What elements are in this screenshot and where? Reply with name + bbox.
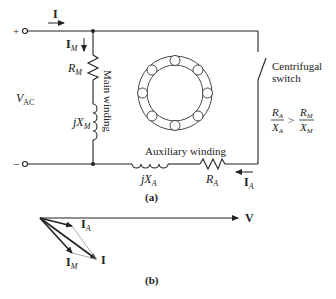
terminal-plus-label: + bbox=[13, 25, 19, 37]
svg-text:RA: RA bbox=[271, 106, 284, 120]
aux-current-phasor-label: IA bbox=[81, 217, 91, 233]
aux-winding-label: Auxiliary winding bbox=[145, 145, 226, 157]
main-resistor-label: RM bbox=[67, 61, 83, 77]
split-phase-motor-diagram: + − I IM RM jXM Main winding VAC Auxilia… bbox=[0, 0, 336, 299]
line-current-label: I bbox=[53, 7, 58, 21]
caption-b: (b) bbox=[145, 274, 159, 287]
switch-label-line1: Centrifugal bbox=[272, 60, 322, 72]
source-voltage-label: VAC bbox=[16, 91, 34, 107]
aux-resistor-label: RA bbox=[205, 172, 218, 188]
aux-resistor-symbol bbox=[200, 159, 225, 169]
terminal-plus bbox=[23, 29, 28, 34]
svg-text:XA: XA bbox=[271, 121, 284, 135]
main-current-label: IM bbox=[66, 37, 79, 53]
main-winding-label: Main winding bbox=[102, 70, 114, 133]
main-reactance-label: jXM bbox=[71, 115, 92, 131]
main-resistor-symbol bbox=[88, 55, 98, 80]
svg-text:XM: XM bbox=[299, 121, 314, 135]
caption-a: (a) bbox=[145, 191, 158, 204]
aux-current-label: IA bbox=[244, 175, 254, 191]
main-current-phasor bbox=[40, 218, 72, 253]
svg-text:RM: RM bbox=[299, 106, 314, 120]
rotor-cross-section bbox=[138, 56, 213, 131]
main-inductor-symbol bbox=[93, 104, 97, 140]
phasor-diagram-b bbox=[40, 218, 238, 259]
terminal-minus-label: − bbox=[13, 158, 19, 170]
svg-text:>: > bbox=[288, 114, 294, 126]
junction-dot-bottom bbox=[91, 162, 95, 166]
total-current-phasor-label: I bbox=[101, 253, 106, 267]
centrifugal-switch-blade bbox=[258, 58, 266, 80]
aux-reactance-label: jXA bbox=[139, 172, 157, 188]
main-current-phasor-label: IM bbox=[66, 255, 79, 271]
terminal-minus bbox=[23, 162, 28, 167]
junction-dot-top bbox=[91, 29, 95, 33]
voltage-phasor-label: V bbox=[245, 211, 254, 225]
aux-inductor-symbol bbox=[132, 164, 168, 168]
ratio-condition: RA XA > RM XM bbox=[271, 106, 314, 135]
switch-label-line2: switch bbox=[272, 72, 301, 84]
